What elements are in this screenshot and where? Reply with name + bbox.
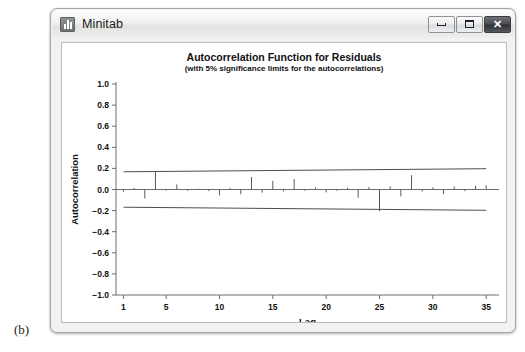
svg-text:15: 15 xyxy=(268,302,278,312)
close-button[interactable]: ✕ xyxy=(484,16,511,33)
x-axis-ticks: 15101520253035 xyxy=(121,295,491,312)
window-titlebar[interactable]: Minitab ✕ xyxy=(52,10,514,38)
svg-text:20: 20 xyxy=(321,302,331,312)
x-axis-label: Lag xyxy=(299,316,316,322)
chart-panel: Autocorrelation Function for Residuals (… xyxy=(61,42,507,323)
svg-text:0.6: 0.6 xyxy=(97,121,109,131)
svg-text:10: 10 xyxy=(215,302,225,312)
bar-chart-icon xyxy=(60,17,75,32)
svg-text:35: 35 xyxy=(481,302,491,312)
svg-text:1.0: 1.0 xyxy=(97,79,109,89)
minimize-icon xyxy=(437,23,446,26)
svg-text:−0.2: −0.2 xyxy=(92,206,109,216)
autocorrelation-spikes xyxy=(123,171,486,211)
axis-lines xyxy=(116,82,499,295)
minimize-button[interactable] xyxy=(428,16,455,33)
svg-text:0.2: 0.2 xyxy=(97,163,109,173)
autocorrelation-plot: 1.00.80.60.40.20.0−0.2−0.4−0.6−0.8−1.0 1… xyxy=(62,43,506,322)
svg-text:−0.6: −0.6 xyxy=(92,248,109,258)
svg-text:0.0: 0.0 xyxy=(97,185,109,195)
svg-text:1: 1 xyxy=(121,302,126,312)
svg-text:30: 30 xyxy=(428,302,438,312)
svg-text:0.8: 0.8 xyxy=(97,100,109,110)
minitab-window: Minitab ✕ Autocorrelation Function for R… xyxy=(50,8,516,333)
svg-text:−0.4: −0.4 xyxy=(92,227,109,237)
y-axis-ticks: 1.00.80.60.40.20.0−0.2−0.4−0.6−0.8−1.0 xyxy=(92,79,116,300)
maximize-button[interactable] xyxy=(456,16,483,33)
y-axis-label: Autocorrelation xyxy=(69,154,80,225)
svg-text:25: 25 xyxy=(375,302,385,312)
svg-text:−1.0: −1.0 xyxy=(92,290,109,300)
svg-text:−0.8: −0.8 xyxy=(92,269,109,279)
svg-text:0.4: 0.4 xyxy=(97,142,109,152)
maximize-icon xyxy=(465,20,474,28)
svg-text:5: 5 xyxy=(164,302,169,312)
window-title: Minitab xyxy=(82,17,427,31)
figure-label: (b) xyxy=(14,322,29,338)
